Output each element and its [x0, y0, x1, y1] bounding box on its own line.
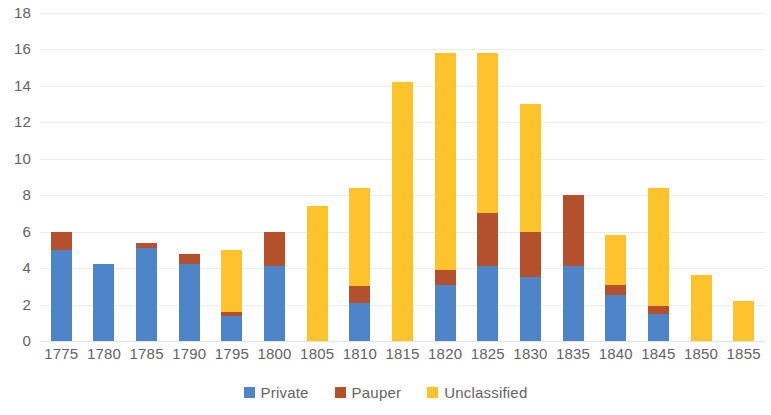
bar-group[interactable]	[307, 13, 328, 341]
bar-segment-pauper[interactable]	[51, 232, 72, 250]
y-axis-tick-label: 0	[22, 333, 31, 348]
gridline	[40, 341, 765, 342]
stacked-bar-chart: 024681012141618 177517801785179017951800…	[0, 0, 771, 415]
bar-segment-private[interactable]	[563, 266, 584, 341]
bar-segment-pauper[interactable]	[349, 286, 370, 302]
legend-swatch-pauper	[335, 387, 346, 398]
bar-segment-unclassified[interactable]	[221, 250, 242, 312]
y-axis-tick-label: 18	[14, 5, 31, 20]
y-axis-tick-label: 12	[14, 114, 31, 129]
legend-item-label: Unclassified	[444, 385, 527, 400]
bar-group[interactable]	[51, 13, 72, 341]
y-axis: 024681012141618	[0, 0, 40, 355]
x-axis-tick-label: 1800	[253, 345, 296, 363]
bar-group[interactable]	[648, 13, 669, 341]
y-axis-tick-label: 8	[22, 187, 31, 202]
legend-item[interactable]: Private	[244, 385, 309, 400]
bar-group[interactable]	[563, 13, 584, 341]
x-axis-tick-label: 1785	[125, 345, 168, 363]
bar-segment-unclassified[interactable]	[307, 206, 328, 341]
bar-segment-private[interactable]	[349, 303, 370, 341]
bar-group[interactable]	[264, 13, 285, 341]
bar-group[interactable]	[349, 13, 370, 341]
bar-group[interactable]	[136, 13, 157, 341]
x-axis-tick-label: 1835	[552, 345, 595, 363]
bar-segment-pauper[interactable]	[605, 285, 626, 296]
bar-group[interactable]	[435, 13, 456, 341]
x-axis-tick-label: 1845	[637, 345, 680, 363]
x-axis-tick-label: 1790	[168, 345, 211, 363]
bar-group[interactable]	[392, 13, 413, 341]
legend-swatch-unclassified	[427, 387, 438, 398]
y-axis-tick-label: 6	[22, 224, 31, 239]
y-axis-tick-label: 14	[14, 78, 31, 93]
bar-segment-private[interactable]	[93, 264, 114, 341]
bar-segment-private[interactable]	[51, 250, 72, 341]
bar-segment-unclassified[interactable]	[435, 53, 456, 270]
bar-segment-unclassified[interactable]	[520, 104, 541, 232]
bar-segment-pauper[interactable]	[179, 254, 200, 265]
bar-segment-unclassified[interactable]	[392, 82, 413, 341]
legend-item[interactable]: Pauper	[335, 385, 402, 400]
x-axis-tick-label: 1850	[680, 345, 723, 363]
bar-group[interactable]	[179, 13, 200, 341]
x-axis-tick-label: 1805	[296, 345, 339, 363]
x-axis-tick-label: 1855	[722, 345, 765, 363]
bar-segment-unclassified[interactable]	[477, 53, 498, 213]
legend-item-label: Private	[261, 385, 309, 400]
bar-group[interactable]	[520, 13, 541, 341]
x-axis-tick-label: 1830	[509, 345, 552, 363]
legend-item[interactable]: Unclassified	[427, 385, 527, 400]
bar-segment-unclassified[interactable]	[691, 275, 712, 341]
bar-segment-private[interactable]	[648, 314, 669, 341]
legend-item-label: Pauper	[352, 385, 402, 400]
bar-segment-private[interactable]	[179, 264, 200, 341]
y-axis-tick-label: 10	[14, 151, 31, 166]
bar-group[interactable]	[605, 13, 626, 341]
y-axis-tick-label: 16	[14, 41, 31, 56]
y-axis-tick-label: 2	[22, 297, 31, 312]
y-axis-tick-label: 4	[22, 260, 31, 275]
x-axis-tick-label: 1825	[466, 345, 509, 363]
bar-segment-unclassified[interactable]	[648, 188, 669, 306]
chart-legend: PrivatePauperUnclassified	[0, 381, 771, 403]
x-axis-tick-label: 1775	[40, 345, 83, 363]
bar-segment-private[interactable]	[264, 266, 285, 341]
bar-segment-private[interactable]	[435, 285, 456, 341]
x-axis-tick-label: 1840	[594, 345, 637, 363]
x-axis: 1775178017851790179518001805181018151820…	[40, 345, 765, 369]
bar-segment-pauper[interactable]	[264, 232, 285, 267]
x-axis-tick-label: 1810	[339, 345, 382, 363]
bar-segment-private[interactable]	[605, 295, 626, 341]
bar-segment-unclassified[interactable]	[733, 301, 754, 341]
bar-group[interactable]	[691, 13, 712, 341]
x-axis-tick-label: 1780	[83, 345, 126, 363]
x-axis-tick-label: 1815	[381, 345, 424, 363]
bar-segment-pauper[interactable]	[221, 312, 242, 316]
bar-segment-private[interactable]	[221, 316, 242, 342]
bar-segment-pauper[interactable]	[136, 243, 157, 248]
bar-segment-pauper[interactable]	[563, 195, 584, 266]
bar-segment-private[interactable]	[136, 248, 157, 341]
bar-segment-pauper[interactable]	[435, 270, 456, 285]
bar-group[interactable]	[477, 13, 498, 341]
bar-group[interactable]	[733, 13, 754, 341]
bar-segment-private[interactable]	[477, 266, 498, 341]
bar-segment-private[interactable]	[520, 277, 541, 341]
plot-area	[40, 13, 765, 341]
bar-segment-unclassified[interactable]	[605, 235, 626, 284]
x-axis-tick-label: 1795	[211, 345, 254, 363]
bar-segment-pauper[interactable]	[648, 306, 669, 313]
legend-swatch-private	[244, 387, 255, 398]
bar-segment-pauper[interactable]	[477, 213, 498, 266]
bar-group[interactable]	[221, 13, 242, 341]
x-axis-tick-label: 1820	[424, 345, 467, 363]
bar-segment-pauper[interactable]	[520, 232, 541, 278]
bar-segment-unclassified[interactable]	[349, 188, 370, 286]
bar-group[interactable]	[93, 13, 114, 341]
